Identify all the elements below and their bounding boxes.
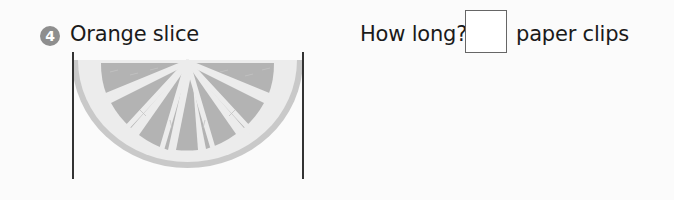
- orange-slice-image: [0, 0, 674, 200]
- measure-line-right: [302, 52, 304, 179]
- measure-line-left: [72, 52, 74, 179]
